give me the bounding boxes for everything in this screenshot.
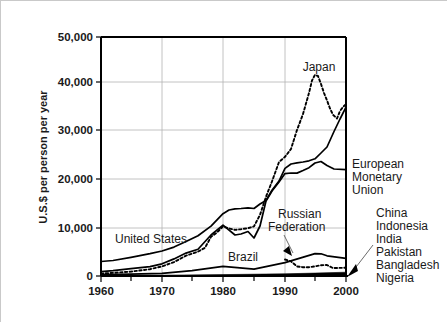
dev-label-pakistan: Pakistan <box>376 245 422 259</box>
x-tick-label-1980: 1980 <box>210 285 236 297</box>
emu-label-line1: European <box>352 157 404 171</box>
y-tick-label-30000: 30,000 <box>58 124 93 136</box>
y-tick-label-0: 0 <box>87 270 93 282</box>
annotation-united-states: United States <box>115 232 187 246</box>
dev-label-nigeria: Nigeria <box>376 271 414 285</box>
y-axis-title: U.S.$ per person per year <box>37 90 49 224</box>
x-tick-label-1990: 1990 <box>272 285 298 297</box>
annotation-russian-federation-line1: Russian <box>278 207 321 221</box>
dev-label-indonesia: Indonesia <box>376 219 428 233</box>
line-chart: 50,000 40,000 30,000 20,000 10,000 0 196… <box>1 1 447 322</box>
x-tick-label-1960: 1960 <box>88 285 114 297</box>
x-tick-label-1970: 1970 <box>149 285 175 297</box>
dev-label-bangladesh: Bangladesh <box>376 258 439 272</box>
dev-label-india: India <box>376 232 402 246</box>
emu-label-line2: Monetary <box>352 170 402 184</box>
y-tick-label-10000: 10,000 <box>58 222 93 234</box>
emu-label-line3: Union <box>352 183 383 197</box>
annotation-japan: Japan <box>303 60 336 74</box>
annotation-brazil: Brazil <box>228 250 258 264</box>
annotation-russian-federation-line2: Federation <box>268 220 325 234</box>
y-tick-label-40000: 40,000 <box>58 76 93 88</box>
x-tick-label-2000: 2000 <box>333 285 359 297</box>
y-tick-label-50000: 50,000 <box>58 31 93 43</box>
dev-label-china: China <box>376 206 408 220</box>
chart-page-frame: 50,000 40,000 30,000 20,000 10,000 0 196… <box>0 0 447 322</box>
y-tick-label-20000: 20,000 <box>58 173 93 185</box>
